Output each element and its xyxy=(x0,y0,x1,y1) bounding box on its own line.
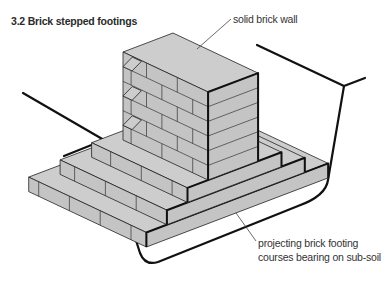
trench-right-edge xyxy=(344,78,365,86)
footing-label-line-1: projecting brick footing xyxy=(258,237,359,249)
footing-label-line-2: courses bearing on sub-soil xyxy=(258,251,381,263)
wall-callout: solid brick wall xyxy=(197,13,298,49)
trench-left-ground-line xyxy=(23,93,104,140)
footing-leader-line xyxy=(236,213,256,241)
figure-title: 3.2 Brick stepped footings xyxy=(11,15,137,27)
trench-right-ground-line xyxy=(257,45,344,86)
footing-callout: projecting brick footing courses bearing… xyxy=(236,213,381,263)
wall-leader-line xyxy=(197,19,231,49)
wall-label: solid brick wall xyxy=(233,13,298,25)
masonry-group xyxy=(29,33,329,247)
brick-footing-diagram: 3.2 Brick stepped footings solid brick w… xyxy=(0,0,387,281)
